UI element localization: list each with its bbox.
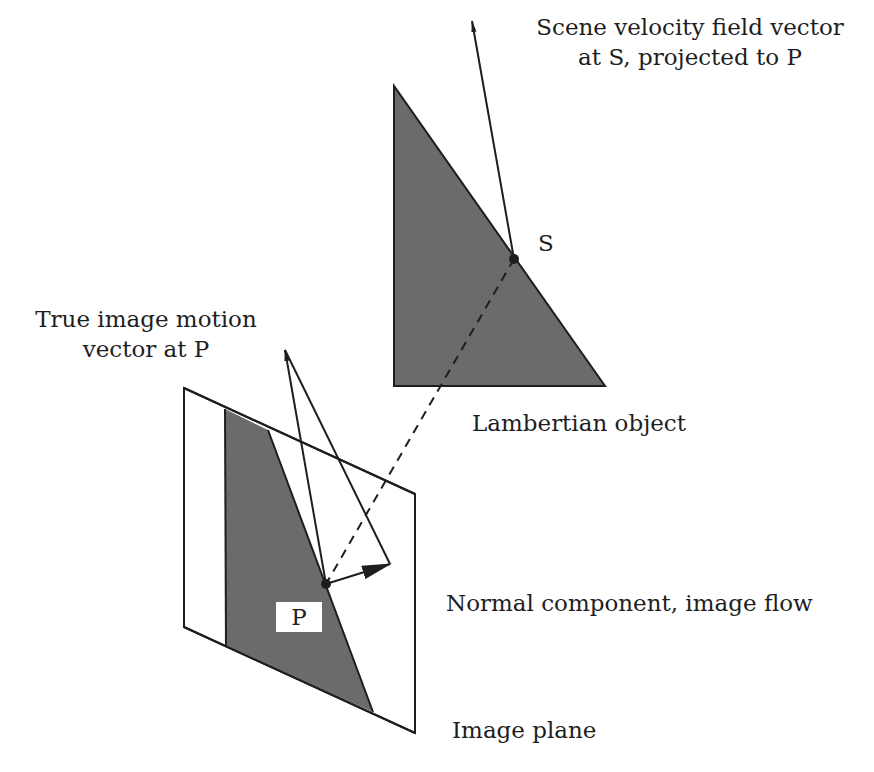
point-p-label: P — [276, 602, 322, 632]
image-region-left-edge — [225, 409, 226, 647]
scene-velocity-label: Scene velocity field vector at S, projec… — [506, 12, 874, 72]
true-motion-label-line2: vector at P — [0, 334, 292, 364]
scene-velocity-label-line2: at S, projected to P — [506, 42, 874, 72]
scene-velocity-label-line1: Scene velocity field vector — [506, 12, 874, 42]
normal-component-label: Normal component, image flow — [446, 588, 813, 618]
true-motion-label-line1: True image motion — [0, 304, 292, 334]
true-motion-label: True image motion vector at P — [0, 304, 292, 364]
image-plane-label: Image plane — [452, 715, 596, 745]
optical-flow-diagram — [0, 0, 874, 772]
point-s-label: S — [538, 228, 554, 258]
point-s-marker — [509, 254, 519, 264]
point-p-label-text: P — [291, 604, 306, 630]
lambertian-object-triangle — [394, 86, 605, 386]
lambertian-object-label: Lambertian object — [472, 408, 686, 438]
point-p-marker — [321, 579, 331, 589]
